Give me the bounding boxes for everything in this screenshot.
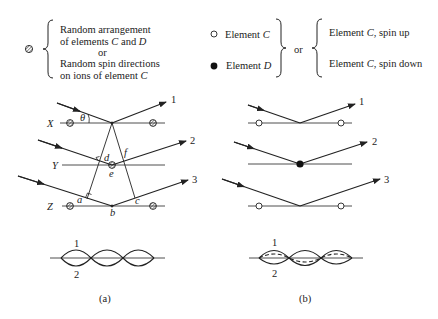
ray-1-label: 1 [171, 94, 176, 105]
theta-arc [88, 114, 89, 123]
wave-2-a [61, 258, 154, 266]
ray-3-reflected-b [300, 179, 380, 206]
theta-label: θ [80, 112, 85, 123]
ray-2-label: 2 [190, 135, 195, 146]
legend-left-brace [43, 20, 53, 78]
wave-2-label-b: 2 [272, 268, 277, 279]
caption-b: (b) [299, 293, 312, 305]
ray-2-label-b: 2 [372, 136, 377, 147]
ray-1-reflected-b [300, 104, 355, 123]
wave-1-a [61, 250, 154, 258]
legend-filled-circle-icon [211, 63, 218, 70]
wave-1-label-a: 1 [74, 238, 79, 249]
diffraction-diagram: X Y Z 1 2 3 θ a b c d e f 1 2 (a) [0, 0, 438, 319]
ray-3-label: 3 [192, 174, 197, 185]
panel-b [222, 104, 380, 266]
plane-y-label: Y [52, 160, 59, 171]
wave-1-label-b: 1 [272, 237, 277, 248]
ray-3-reflected [112, 180, 188, 206]
plane-x-label: X [46, 118, 54, 129]
wave-2-label-a: 2 [74, 269, 79, 280]
perpendicular-line-right [112, 123, 135, 198]
ray-1-label-b: 1 [359, 96, 364, 107]
caption-a: (a) [99, 293, 111, 305]
legend-hatched-atom-icon [25, 45, 32, 52]
ray-2-reflected-b [300, 142, 367, 164]
point-e-label: e [109, 168, 114, 179]
legend-open-circle-icon [211, 31, 217, 37]
point-a-label: a [77, 194, 82, 205]
ray-3-label-b: 3 [384, 174, 389, 185]
point-d-label: d [104, 152, 110, 163]
point-c-label: c [135, 195, 140, 206]
ray-1-reflected [112, 102, 166, 123]
panel-a [18, 102, 188, 266]
panel-b-labels: 1 2 3 1 2 (b) [272, 96, 389, 305]
point-b-label: b [110, 207, 115, 218]
point-f-label: f [124, 147, 129, 158]
legend-right-brace [312, 19, 322, 77]
plane-z-label: Z [47, 201, 53, 212]
legend-middle-brace [276, 19, 286, 77]
